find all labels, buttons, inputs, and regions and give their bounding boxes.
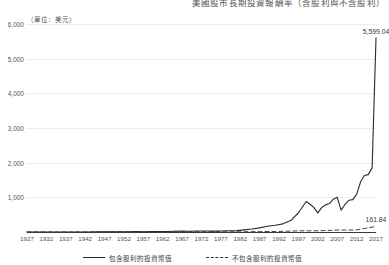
y-axis-tick-label: 4,000 bbox=[8, 90, 24, 97]
y-axis-tick-label: 5,000 bbox=[8, 55, 24, 62]
x-axis-tick-label: 2017 bbox=[369, 235, 383, 242]
chart-title: 美國股市長期投資報酬率（含股利與不含股利） bbox=[150, 0, 385, 7]
x-axis-tick-label: 2012 bbox=[350, 235, 364, 242]
legend-label: 不包含股利的投資幣值 bbox=[232, 253, 302, 263]
x-axis-tick-label: 1982 bbox=[233, 235, 247, 242]
legend-line-swatch bbox=[206, 257, 228, 258]
x-axis-line bbox=[27, 232, 376, 233]
series-paths bbox=[27, 24, 376, 232]
data-point-label: 161.84 bbox=[366, 216, 387, 223]
unit-label: （單位：美元） bbox=[27, 14, 76, 24]
y-axis-tick-label: 1,000 bbox=[8, 194, 24, 201]
x-axis-tick-label: 1942 bbox=[78, 235, 92, 242]
x-axis-tick-label: 1967 bbox=[175, 235, 189, 242]
legend-label: 包含股利的投資幣值 bbox=[109, 253, 172, 263]
y-axis-tick-label: 6,000 bbox=[8, 21, 24, 28]
y-axis-tick-label: 2,000 bbox=[8, 159, 24, 166]
x-axis-tick-label: 1977 bbox=[214, 235, 228, 242]
x-axis-tick-labels: 1927193219371942194719521957196219671972… bbox=[27, 235, 376, 247]
x-axis-tick-label: 1987 bbox=[253, 235, 267, 242]
y-axis-tick-label: 3,000 bbox=[8, 125, 24, 132]
x-axis-tick-label: 1962 bbox=[156, 235, 170, 242]
legend-line-swatch bbox=[83, 257, 105, 258]
x-axis-tick-label: 1947 bbox=[98, 235, 112, 242]
data-point-label: 5,599.04 bbox=[363, 28, 389, 35]
x-axis-tick-label: 1997 bbox=[292, 235, 306, 242]
x-axis-tick-label: 1992 bbox=[272, 235, 286, 242]
x-axis-tick-label: 1972 bbox=[195, 235, 209, 242]
x-axis-tick-label: 1937 bbox=[59, 235, 73, 242]
legend-item[interactable]: 不包含股利的投資幣值 bbox=[206, 253, 302, 263]
x-axis-tick-label: 2007 bbox=[330, 235, 344, 242]
x-axis-tick-label: 2002 bbox=[311, 235, 325, 242]
legend-item[interactable]: 包含股利的投資幣值 bbox=[83, 253, 172, 263]
x-axis-tick-label: 1927 bbox=[20, 235, 34, 242]
x-axis-tick-label: 1932 bbox=[39, 235, 53, 242]
series-line-with-dividends bbox=[27, 38, 376, 232]
x-axis-tick-label: 1957 bbox=[136, 235, 150, 242]
x-axis-tick-label: 1952 bbox=[117, 235, 131, 242]
chart-legend: 包含股利的投資幣值不包含股利的投資幣值 bbox=[0, 250, 385, 265]
plot-area: 1,0002,0003,0004,0005,0006,000 bbox=[27, 24, 376, 232]
